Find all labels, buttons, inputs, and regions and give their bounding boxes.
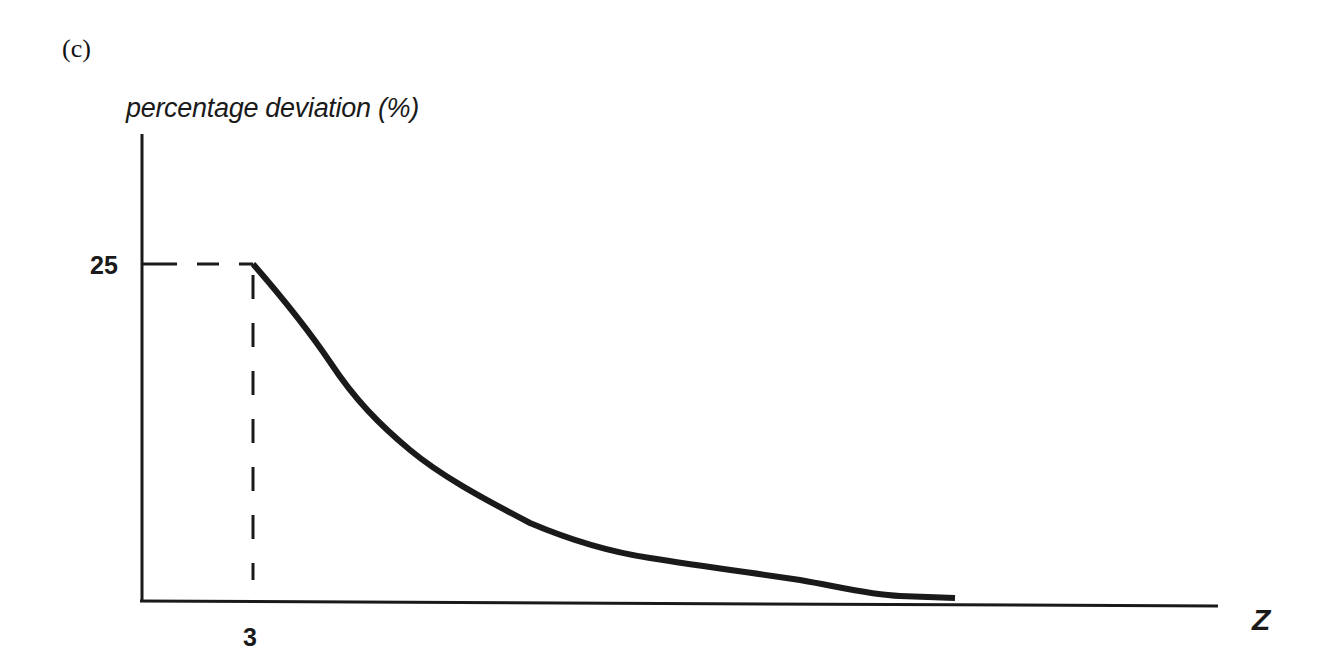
x-axis (140, 601, 1218, 606)
plot-area (0, 0, 1336, 668)
deviation-curve (253, 264, 955, 598)
